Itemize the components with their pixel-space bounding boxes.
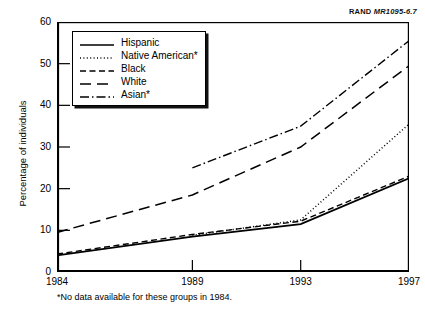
chart-footnote: *No data available for these groups in 1… <box>57 292 232 302</box>
legend-line-swatch-icon <box>79 76 115 88</box>
series-line-asian <box>192 41 409 168</box>
x-tick-label: 1993 <box>281 276 321 287</box>
legend-line-swatch-icon <box>79 89 115 101</box>
series-line-native-american <box>192 124 409 235</box>
legend-item-label: White <box>121 76 147 88</box>
legend-line-swatch-icon <box>79 63 115 75</box>
legend-item: Black <box>79 62 198 75</box>
legend-item-label: Asian* <box>121 89 150 101</box>
y-tick-label: 40 <box>27 99 51 110</box>
rand-source-label: RAND MR1095-6.7 <box>349 7 417 16</box>
legend-item: Hispanic <box>79 36 198 49</box>
y-tick-label: 30 <box>27 141 51 152</box>
chart-figure: RAND MR1095-6.7 Percentage of individual… <box>0 0 425 319</box>
series-line-black <box>57 176 409 254</box>
y-tick-label: 60 <box>27 16 51 27</box>
legend-item: Asian* <box>79 88 198 101</box>
x-tick-label: 1997 <box>389 276 425 287</box>
y-axis-label: Percentage of individuals <box>17 64 28 244</box>
legend-item-label: Black <box>121 63 145 75</box>
legend-line-swatch-icon <box>79 50 115 62</box>
series-line-hispanic <box>57 178 409 255</box>
legend-item: Native American* <box>79 49 198 62</box>
y-tick-label: 10 <box>27 224 51 235</box>
legend-item-label: Native American* <box>121 50 198 62</box>
x-tick-label: 1989 <box>172 276 212 287</box>
legend-item: White <box>79 75 198 88</box>
y-tick-label: 50 <box>27 58 51 69</box>
legend-item-label: Hispanic <box>121 37 159 49</box>
rand-code: MR1095-6.7 <box>374 7 417 16</box>
x-tick-label: 1984 <box>37 276 77 287</box>
legend-line-swatch-icon <box>79 37 115 49</box>
rand-org: RAND <box>349 7 371 16</box>
legend: HispanicNative American*BlackWhiteAsian* <box>72 31 206 106</box>
y-tick-label: 20 <box>27 183 51 194</box>
